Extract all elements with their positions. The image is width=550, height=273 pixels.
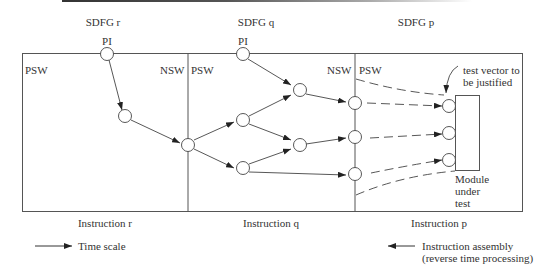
node-boundary-qp-3	[349, 168, 362, 181]
psw-label-p: PSW	[359, 64, 382, 76]
node-q-2	[237, 162, 250, 175]
nsw-label-r: NSW	[160, 64, 184, 76]
node-module-input-1	[443, 100, 456, 113]
node-pi-r	[101, 48, 114, 61]
node-q-3	[294, 84, 307, 97]
assembly-line1: Instruction assembly	[422, 240, 533, 252]
module-line1: Module	[455, 173, 489, 185]
node-boundary-rq	[182, 139, 195, 152]
sdfg-q-title: SDFG q	[238, 16, 274, 28]
test-vector-line1: test vector to	[463, 64, 520, 76]
node-pi-q	[237, 48, 250, 61]
test-vector-label: test vector to be justified	[463, 64, 520, 88]
psw-label-r: PSW	[25, 64, 48, 76]
instruction-p-label: Instruction p	[411, 217, 467, 229]
module-under-test-label: Module under test	[455, 173, 489, 209]
node-boundary-qp-2	[349, 131, 362, 144]
assembly-line2: (reverse time processing)	[422, 252, 533, 264]
node-module-input-2	[443, 127, 456, 140]
sdfg-p-title: SDFG p	[398, 16, 434, 28]
pi-label-q: PI	[238, 35, 248, 47]
module-line3: test	[455, 197, 489, 209]
node-boundary-qp-1	[349, 97, 362, 110]
test-vector-line2: be justified	[463, 76, 520, 88]
instruction-q-label: Instruction q	[243, 217, 299, 229]
sdfg-r-title: SDFG r	[86, 16, 121, 28]
psw-label-q: PSW	[191, 64, 214, 76]
node-module-input-3	[443, 154, 456, 167]
node-r-1	[119, 110, 132, 123]
module-line2: under	[455, 185, 489, 197]
pi-label-r: PI	[102, 35, 112, 47]
instruction-assembly-label: Instruction assembly (reverse time proce…	[422, 240, 533, 264]
nsw-label-q: NSW	[327, 64, 351, 76]
instruction-r-label: Instruction r	[78, 217, 132, 229]
node-q-1	[237, 114, 250, 127]
module-under-test-box	[456, 96, 480, 171]
time-scale-label: Time scale	[78, 240, 126, 252]
node-q-4	[294, 139, 307, 152]
sdfg-diagram	[0, 0, 550, 273]
